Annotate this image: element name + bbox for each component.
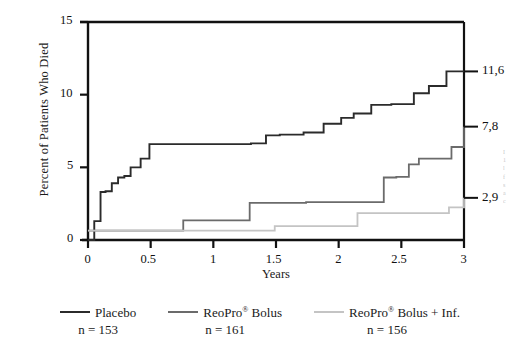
margin-note-line: f bbox=[503, 173, 521, 181]
legend-label: Placebo bbox=[95, 305, 136, 321]
series-line-1 bbox=[88, 71, 464, 240]
series-line-2 bbox=[88, 127, 464, 231]
series-layer bbox=[88, 71, 464, 240]
x-axis-title: Years bbox=[88, 267, 464, 282]
end-value-label: 11,6 bbox=[482, 62, 504, 78]
legend-line-swatch bbox=[314, 311, 344, 313]
end-value-label: 2,9 bbox=[482, 189, 498, 205]
chart-legend: Placebon = 153ReoPro® Bolusn = 161ReoPro… bbox=[60, 305, 460, 338]
registered-trademark-icon: ® bbox=[388, 305, 394, 314]
legend-line-swatch bbox=[60, 311, 90, 313]
legend-sample-size: n = 153 bbox=[78, 322, 118, 338]
x-tick-label: 1 bbox=[210, 252, 216, 267]
margin-note-line: l bbox=[503, 164, 521, 172]
legend-line-swatch bbox=[168, 311, 198, 313]
x-tick-label: 2 bbox=[335, 252, 341, 267]
legend-entry: ReoPro® Bolus bbox=[168, 305, 282, 321]
legend-item-1[interactable]: Placebon = 153 bbox=[60, 305, 136, 338]
legend-item-2[interactable]: ReoPro® Bolusn = 161 bbox=[168, 305, 282, 338]
legend-label: ReoPro® Bolus bbox=[203, 305, 282, 321]
kaplan-meier-chart bbox=[0, 0, 521, 346]
margin-note-line: 1 bbox=[503, 156, 521, 164]
y-tick-label: 15 bbox=[60, 13, 73, 28]
x-tick-label: 2.5 bbox=[391, 252, 407, 267]
margin-note-line: s bbox=[503, 181, 521, 189]
legend-item-3[interactable]: ReoPro® Bolus + Inf.n = 156 bbox=[314, 305, 460, 338]
x-tick-label: 0 bbox=[85, 252, 91, 267]
legend-entry: ReoPro® Bolus + Inf. bbox=[314, 305, 460, 321]
chart-page: Percent of Patients Who Died Years 15105… bbox=[0, 0, 521, 346]
x-tick-label: 0.5 bbox=[140, 252, 156, 267]
y-tick-label: 0 bbox=[67, 231, 73, 246]
legend-label: ReoPro® Bolus + Inf. bbox=[349, 305, 460, 321]
page-margin-text: I1lfsac bbox=[503, 148, 521, 205]
legend-sample-size: n = 156 bbox=[367, 322, 407, 338]
legend-sample-size: n = 161 bbox=[205, 322, 245, 338]
end-tick-layer bbox=[464, 71, 478, 197]
margin-note-line: a bbox=[503, 189, 521, 197]
y-axis-title: Percent of Patients Who Died bbox=[37, 10, 52, 230]
registered-trademark-icon: ® bbox=[242, 305, 248, 314]
x-tick-label: 3 bbox=[461, 252, 467, 267]
y-tick-label: 5 bbox=[67, 158, 73, 173]
margin-note-line: I bbox=[503, 148, 521, 156]
y-tick-label: 10 bbox=[60, 86, 73, 101]
end-value-label: 7,8 bbox=[482, 118, 498, 134]
legend-entry: Placebo bbox=[60, 305, 136, 321]
margin-note-line: c bbox=[503, 197, 521, 205]
x-tick-label: 1.5 bbox=[266, 252, 282, 267]
